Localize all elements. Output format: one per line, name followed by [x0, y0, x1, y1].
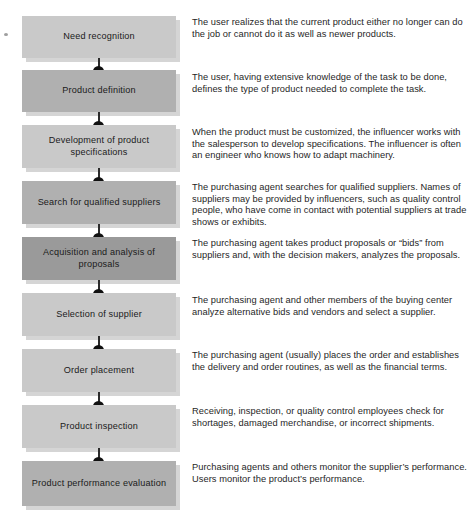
stage-label: Selection of supplier	[56, 309, 142, 320]
stage-box: Development of product specifications	[22, 125, 176, 168]
stage-3-description: When the product must be customized, the…	[192, 127, 474, 162]
stage-9-product-performance-evaluation[interactable]: Product performance evaluation	[22, 461, 176, 506]
stage-label: Product performance evaluation	[32, 478, 166, 489]
stage-box: Order placement	[22, 349, 176, 392]
stage-box: Selection of supplier	[22, 293, 176, 336]
stage-box: Product performance evaluation	[22, 461, 176, 506]
stage-label: Need recognition	[63, 31, 135, 42]
stage-6-description: The purchasing agent and other members o…	[192, 295, 474, 318]
flowchart-column: Need recognition Product definition Deve…	[0, 0, 190, 520]
stage-label: Product inspection	[60, 421, 138, 432]
stage-box: Product inspection	[22, 405, 176, 448]
stage-8-description: Receiving, inspection, or quality contro…	[192, 406, 474, 429]
stage-label: Order placement	[64, 365, 134, 376]
stage-1-description: The user realizes that the current produ…	[192, 17, 474, 40]
stage-label: Acquisition and analysis of proposals	[28, 247, 170, 270]
stage-5-acquisition-and-analysis-of-proposals[interactable]: Acquisition and analysis of proposals	[22, 237, 176, 280]
stage-5-description: The purchasing agent takes product propo…	[192, 238, 474, 261]
stage-label: Product definition	[62, 85, 136, 96]
stage-box: Need recognition	[22, 16, 176, 58]
stage-1-need-recognition[interactable]: Need recognition	[22, 16, 176, 58]
stage-8-product-inspection[interactable]: Product inspection	[22, 405, 176, 448]
stage-9-description: Purchasing agents and others monitor the…	[192, 462, 474, 485]
stage-4-search-for-qualified-suppliers[interactable]: Search for qualified suppliers	[22, 181, 176, 224]
stage-3-development-of-product-specifications[interactable]: Development of product specifications	[22, 125, 176, 168]
stage-7-description: The purchasing agent (usually) places th…	[192, 350, 474, 373]
stage-2-product-definition[interactable]: Product definition	[22, 70, 176, 112]
stage-box: Product definition	[22, 70, 176, 112]
stage-6-selection-of-supplier[interactable]: Selection of supplier	[22, 293, 176, 336]
stage-7-order-placement[interactable]: Order placement	[22, 349, 176, 392]
stage-box: Search for qualified suppliers	[22, 181, 176, 224]
stage-box: Acquisition and analysis of proposals	[22, 237, 176, 280]
stage-4-description: The purchasing agent searches for qualif…	[192, 182, 474, 228]
stage-2-description: The user, having extensive knowledge of …	[192, 72, 474, 95]
description-column: The user realizes that the current produ…	[190, 0, 476, 520]
stage-label: Development of product specifications	[28, 135, 170, 158]
buying-process-diagram: Need recognition Product definition Deve…	[0, 0, 476, 520]
stage-label: Search for qualified suppliers	[38, 197, 161, 208]
